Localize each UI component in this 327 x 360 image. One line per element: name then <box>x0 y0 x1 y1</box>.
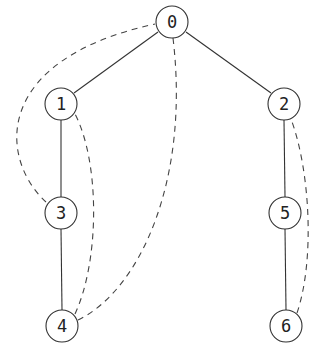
node-5: 5 <box>269 197 301 229</box>
node-4-label: 4 <box>57 316 67 336</box>
node-1: 1 <box>45 88 77 120</box>
node-6: 6 <box>270 310 302 342</box>
graph-svg: 0 1 2 3 4 5 6 <box>0 0 327 360</box>
tree-edges <box>61 32 286 310</box>
graph-diagram: 0 1 2 3 4 5 6 <box>0 0 327 360</box>
edge-5-6 <box>285 229 286 310</box>
node-0: 0 <box>156 6 188 38</box>
edge-2-5 <box>284 120 285 197</box>
back-edge-4-0 <box>78 38 176 320</box>
edge-3-4 <box>61 229 62 310</box>
node-1-label: 1 <box>56 94 66 114</box>
node-2: 2 <box>268 88 300 120</box>
node-3-label: 3 <box>56 203 66 223</box>
node-2-label: 2 <box>279 94 289 114</box>
node-5-label: 5 <box>280 203 290 223</box>
edge-0-2 <box>186 32 271 93</box>
edge-0-1 <box>74 32 158 93</box>
node-6-label: 6 <box>281 316 291 336</box>
back-edge-3-0 <box>17 24 155 202</box>
node-0-label: 0 <box>167 12 177 32</box>
node-4: 4 <box>46 310 78 342</box>
node-3: 3 <box>45 197 77 229</box>
